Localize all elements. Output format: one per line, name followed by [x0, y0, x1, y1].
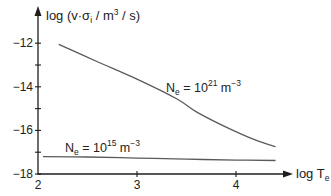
series-line-ne-1e21 [59, 44, 276, 146]
x-tick-label: 3 [134, 178, 141, 192]
x-axis [38, 171, 293, 178]
x-axis-title: log Te [296, 166, 330, 183]
x-tick-label: 4 [233, 178, 240, 192]
annotation-ne-1e15: Ne = 1015 m−3 [65, 138, 140, 157]
y-tick-label: −12 [13, 36, 34, 50]
y-tick-label: −18 [13, 167, 34, 181]
y-tick-label: −14 [13, 80, 34, 94]
y-ticks: −12−14−16−18 [13, 36, 41, 181]
y-tick-label: −16 [13, 123, 34, 137]
y-axis [35, 6, 42, 175]
y-axis-title: log (v·σi / m3 / s) [46, 7, 140, 25]
chart: −12−14−16−18 234 log (v·σi / m3 / s) log… [0, 0, 331, 196]
y-axis-arrow-icon [35, 6, 42, 16]
x-axis-arrow-icon [283, 171, 293, 178]
annotation-ne-1e21: Ne = 1021 m−3 [166, 78, 241, 97]
series-line-ne-1e15 [43, 157, 276, 161]
x-tick-label: 2 [35, 178, 42, 192]
